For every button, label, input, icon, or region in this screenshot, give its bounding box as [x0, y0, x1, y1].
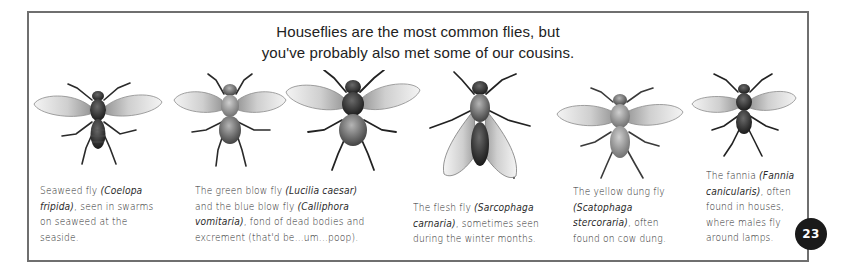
caption-text: , often	[628, 216, 659, 228]
caption-text: The fannia	[706, 169, 759, 181]
caption-latin: (Scatophaga	[573, 201, 632, 213]
yellow-dung-fly-caption: The yellow dung fly (Scatophaga stercora…	[573, 184, 693, 246]
fannia-caption: The fannia (Fannia canicularis), often f…	[706, 168, 801, 246]
seaweed-fly-illustration	[32, 78, 164, 170]
caption-text: found on cow dung.	[573, 231, 693, 247]
caption-text: , sometimes seen	[456, 217, 539, 229]
caption-text: excrement (that'd be...um...poop).	[195, 230, 376, 246]
caption-text: found in houses,	[706, 199, 801, 215]
yellow-dung-fly-illustration	[555, 84, 685, 182]
caption-latin: fripida)	[40, 200, 74, 212]
caption-latin: (Coelopa	[100, 184, 142, 196]
caption-latin: (Lucilia caesar)	[285, 184, 357, 196]
blow-fly-caption: The green blow fly (Lucilia caesar) and …	[195, 183, 376, 245]
caption-latin: carnaria)	[413, 217, 456, 229]
caption-latin: canicularis)	[706, 185, 760, 197]
caption-text: , seen in swarms	[74, 200, 153, 212]
caption-text: during the winter months.	[413, 231, 568, 247]
seaweed-fly-caption: Seaweed fly (Coelopa fripida), seen in s…	[40, 183, 186, 245]
caption-text: The green blow fly	[195, 184, 285, 196]
caption-text: , often	[760, 185, 791, 197]
caption-latin: (Fannia	[759, 169, 794, 181]
caption-latin: (Sarcophaga	[474, 201, 534, 213]
caption-text: , fond of dead bodies and	[244, 215, 365, 227]
caption-latin: stercoraria)	[573, 216, 628, 228]
page-number-badge: 23	[795, 218, 827, 250]
caption-text: seaside.	[40, 230, 186, 246]
caption-text: on seaweed at the	[40, 214, 186, 230]
caption-text: The flesh fly	[413, 201, 474, 213]
heading-line-1: Houseflies are the most common flies, bu…	[29, 21, 807, 42]
green-blow-fly-illustration	[172, 72, 288, 168]
heading-line-2: you've probably also met some of our cou…	[29, 42, 807, 63]
caption-text: where males fly	[706, 215, 801, 231]
fannia-illustration	[690, 72, 798, 164]
blue-blow-fly-illustration	[284, 70, 422, 174]
caption-text: The yellow dung fly	[573, 184, 693, 200]
caption-latin: (Calliphora	[298, 200, 349, 212]
caption-text: Seaweed fly	[40, 184, 100, 196]
page-heading: Houseflies are the most common flies, bu…	[29, 21, 807, 63]
caption-text: around lamps.	[706, 230, 801, 246]
flesh-fly-caption: The flesh fly (Sarcophaga carnaria), som…	[413, 200, 568, 247]
caption-latin: vomitaria)	[195, 215, 244, 227]
caption-text: and the blue blow fly	[195, 200, 298, 212]
flesh-fly-illustration	[418, 70, 542, 190]
